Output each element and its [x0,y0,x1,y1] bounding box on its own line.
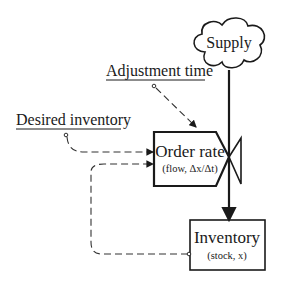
order-rate-sublabel: (flow, Δx/Δt) [162,163,218,175]
inventory-sublabel: (stock, x) [207,250,247,262]
supply-label: Supply [206,34,251,52]
supply-cloud: Supply [194,18,264,68]
desired-inventory-label: Desired inventory [16,111,131,129]
stock-flow-diagram: Supply Order rate (flow, Δx/Δt) Inventor… [0,0,282,284]
desired-inventory-link [67,137,153,152]
inventory-feedback [91,164,191,256]
inventory-box: Inventory (stock, x) [190,220,265,270]
adjustment-link [156,88,196,127]
order-rate-label: Order rate [155,142,224,161]
adjustment-time-label: Adjustment time [106,62,213,80]
inventory-label: Inventory [194,228,261,247]
valve-icon [229,138,241,184]
order-rate-box: Order rate (flow, Δx/Δt) [154,132,229,186]
desired-inventory-parameter: Desired inventory [16,111,153,152]
